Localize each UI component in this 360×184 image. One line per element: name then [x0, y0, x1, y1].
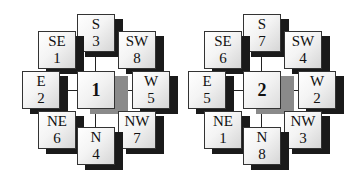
center-number: 1 — [92, 83, 101, 98]
box-number: 1 — [219, 131, 227, 146]
direction-label: N — [91, 130, 102, 145]
box-face: 2 — [243, 71, 281, 109]
box-w: W 2 — [298, 71, 336, 109]
box-w: W 5 — [132, 71, 170, 109]
direction-label: S — [92, 17, 100, 32]
direction-label: W — [310, 74, 324, 89]
box-face: N 4 — [77, 127, 115, 165]
box-n: N 8 — [243, 127, 281, 165]
direction-label: E — [36, 74, 45, 89]
direction-label: W — [144, 74, 158, 89]
direction-label: E — [202, 74, 211, 89]
box-number: 7 — [258, 34, 266, 49]
box-face: N 8 — [243, 127, 281, 165]
box-face: SW 4 — [284, 31, 322, 69]
direction-label: NE — [47, 114, 67, 129]
box-face: SE 1 — [38, 31, 76, 69]
box-face: SW 8 — [118, 31, 156, 69]
direction-label: SW — [292, 34, 315, 49]
box-face: SE 6 — [204, 31, 242, 69]
box-sw: SW 8 — [118, 31, 156, 69]
box-number: 1 — [53, 51, 61, 66]
compass-diagram-1: S 3 SE 1 SW 8 1 E 2 W 5 — [0, 0, 180, 184]
box-se: SE 6 — [204, 31, 242, 69]
box-face: 1 — [77, 71, 115, 109]
box-sw: SW 4 — [284, 31, 322, 69]
center-number: 2 — [258, 83, 267, 98]
box-se: SE 1 — [38, 31, 76, 69]
box-number: 8 — [133, 51, 141, 66]
box-e: E 5 — [188, 71, 226, 109]
box-face: E 5 — [188, 71, 226, 109]
box-face: W 2 — [298, 71, 336, 109]
box-number: 3 — [299, 131, 307, 146]
box-number: 4 — [299, 51, 307, 66]
box-number: 3 — [92, 34, 100, 49]
box-n: N 4 — [77, 127, 115, 165]
box-number: 2 — [37, 91, 45, 106]
compass-diagram-2: S 7 SE 6 SW 4 2 E 5 W 2 — [166, 0, 346, 184]
box-ne: NE 1 — [204, 111, 242, 149]
box-face: E 2 — [22, 71, 60, 109]
box-ne: NE 6 — [38, 111, 76, 149]
box-face: NW 7 — [118, 111, 156, 149]
box-face: NE 6 — [38, 111, 76, 149]
box-number: 7 — [133, 131, 141, 146]
direction-label: SE — [48, 34, 66, 49]
direction-label: N — [257, 130, 268, 145]
direction-label: SE — [214, 34, 232, 49]
direction-label: NW — [125, 114, 150, 129]
direction-label: S — [258, 17, 266, 32]
box-face: W 5 — [132, 71, 170, 109]
box-e: E 2 — [22, 71, 60, 109]
box-number: 5 — [203, 91, 211, 106]
direction-label: NW — [291, 114, 316, 129]
box-nw: NW 7 — [118, 111, 156, 149]
direction-label: NE — [213, 114, 233, 129]
direction-label: SW — [126, 34, 149, 49]
box-nw: NW 3 — [284, 111, 322, 149]
box-face: NW 3 — [284, 111, 322, 149]
box-number: 6 — [219, 51, 227, 66]
box-number: 2 — [313, 91, 321, 106]
box-center: 2 — [243, 71, 281, 109]
box-center: 1 — [77, 71, 115, 109]
box-number: 4 — [92, 147, 100, 162]
box-number: 6 — [53, 131, 61, 146]
box-face: NE 1 — [204, 111, 242, 149]
box-number: 8 — [258, 147, 266, 162]
box-number: 5 — [147, 91, 155, 106]
